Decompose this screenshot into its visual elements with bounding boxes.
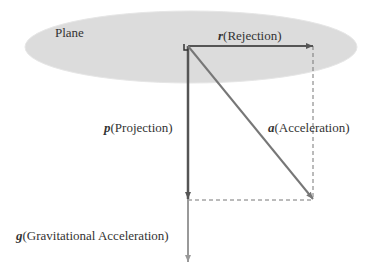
gravity-text: (Gravitational Acceleration)	[23, 228, 169, 243]
projection-label: p(Projection)	[104, 121, 173, 134]
gravity-label: g(Gravitational Acceleration)	[16, 229, 169, 242]
acceleration-label: a(Acceleration)	[268, 121, 350, 134]
projection-text: (Projection)	[111, 120, 173, 135]
plane-label: Plane	[55, 26, 84, 39]
acceleration-text: (Acceleration)	[275, 120, 350, 135]
rejection-label: r(Rejection)	[218, 29, 282, 42]
rejection-text: (Rejection)	[223, 28, 281, 43]
